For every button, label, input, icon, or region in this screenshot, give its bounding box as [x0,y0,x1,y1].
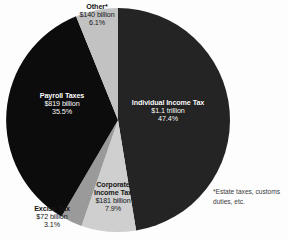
pie-label-payroll-taxes-percent: 35.5% [24,108,100,116]
pie-label-other-percent: 6.1% [66,19,128,27]
pie-chart-figure: Other* $140 billion 6.1% Individual Inco… [0,0,288,240]
footnote: *Estate taxes, customs duties, etc. [213,187,288,206]
footnote-line2: duties, etc. [213,198,245,205]
pie-label-other: Other* $140 billion 6.1% [66,3,128,27]
pie-label-corporate-income-tax: Corporate Income Tax $181 billion 7.9% [82,181,144,213]
pie-label-individual-income-tax-percent: 47.4% [124,115,212,123]
pie-label-payroll-taxes: Payroll Taxes $819 billion 35.5% [24,92,100,116]
footnote-line1: *Estate taxes, customs [213,188,280,195]
pie-label-excise-tax-percent: 3.1% [16,221,88,229]
pie-label-corporate-income-tax-percent: 7.9% [82,205,144,213]
pie-label-individual-income-tax: Individual Income Tax $1.1 trillion 47.4… [124,99,212,123]
pie-label-excise-tax: Excise Tax $72 billion 3.1% [16,205,88,229]
